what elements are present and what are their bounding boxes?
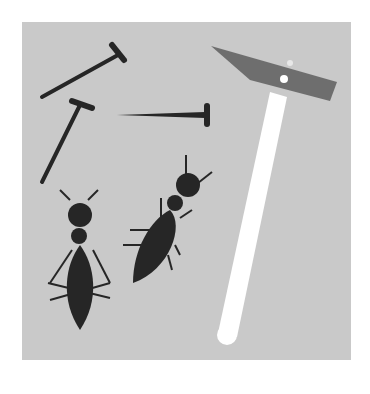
ant-icon	[123, 155, 212, 283]
nail-icon	[42, 101, 92, 182]
ant-icon	[48, 190, 110, 330]
illustration	[0, 0, 370, 394]
nail-icon	[117, 106, 207, 124]
nail-icon	[42, 45, 124, 97]
hammer-icon	[211, 46, 337, 345]
